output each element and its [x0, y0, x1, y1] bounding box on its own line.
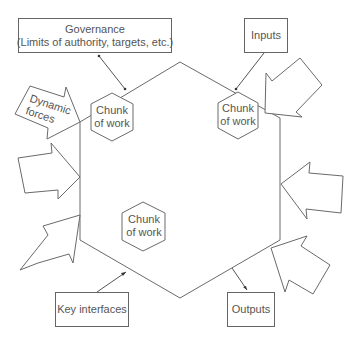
key-interfaces-label: Key interfaces [57, 303, 127, 316]
right-arrow-lower [271, 236, 330, 294]
inputs-connector [236, 53, 264, 89]
key-interfaces-box: Key interfaces [55, 292, 129, 327]
right-arrow-upper [265, 58, 322, 117]
inputs-box: Inputs [244, 18, 288, 53]
chunk-label-3: Chunk of work [123, 213, 165, 239]
governance-subtitle: (Limits of authority, targets, etc.) [17, 36, 173, 49]
governance-box: Governance (Limits of authority, targets… [18, 18, 172, 53]
chunk-label-1: Chunk of work [92, 104, 132, 130]
outputs-label: Outputs [232, 303, 271, 316]
left-arrow-lower [20, 215, 80, 270]
inputs-label: Inputs [251, 29, 281, 42]
right-arrow-middle [281, 162, 343, 219]
chunk-label-2: Chunk of work [218, 102, 258, 128]
key-interfaces-connector [97, 272, 126, 292]
governance-connector [99, 56, 125, 89]
outputs-box: Outputs [227, 292, 275, 327]
left-arrow-middle [18, 143, 80, 199]
governance-title: Governance [17, 23, 173, 36]
